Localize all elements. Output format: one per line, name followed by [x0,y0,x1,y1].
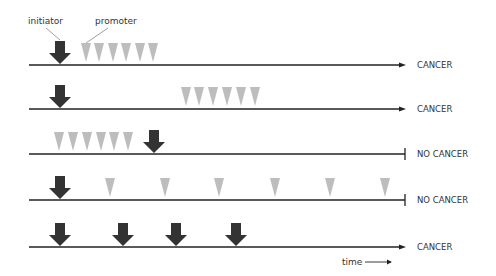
promoter-icon [236,87,246,106]
initiator-leader-line [46,28,60,40]
promoter-icon [135,43,145,62]
arrow-head-icon [399,107,406,112]
promoter-icon [94,43,104,62]
arrow-head-icon [399,63,406,68]
initiator-icon [49,85,71,108]
time-label: time [342,257,363,267]
outcome-label: CANCER [417,242,452,252]
promoter-icon [222,87,232,106]
initiator-icon [143,130,165,153]
promoter-leader-line [86,28,108,43]
carcinogenesis-diagram: initiator promoter CANCERCANCERNO CANCER… [0,0,496,276]
timeline-row: CANCER [29,41,452,70]
initiator-label: initiator [28,16,63,26]
promoter-icon [54,132,64,151]
promoter-icon [108,43,118,62]
initiator-icon [112,223,134,246]
outcome-label: NO CANCER [417,195,468,205]
promoter-icon [121,43,131,62]
outcome-label: NO CANCER [417,149,468,159]
promoter-icon [194,87,204,106]
initiator-icon [225,223,247,246]
promoter-icon [160,178,170,197]
promoter-icon [214,178,224,197]
initiator-icon [49,223,71,246]
outcome-label: CANCER [417,60,452,70]
promoter-icon [380,178,390,197]
promoter-icon [325,178,335,197]
promoter-icon [105,178,115,197]
initiator-icon [49,41,71,64]
promoter-icon [82,132,92,151]
timeline-row: NO CANCER [29,130,468,160]
promoter-icon [250,87,260,106]
promoter-icon [181,87,191,106]
promoter-icon [81,43,91,62]
promoter-icon [123,132,133,151]
promoter-icon [270,178,280,197]
promoter-icon [68,132,78,151]
promoter-icon [148,43,158,62]
promoter-icon [96,132,106,151]
promoter-icon [109,132,119,151]
timeline-row: NO CANCER [29,176,468,206]
outcome-label: CANCER [417,104,452,114]
initiator-icon [165,223,187,246]
promoter-label: promoter [95,16,137,26]
promoter-icon [208,87,218,106]
initiator-icon [49,176,71,199]
timeline-row: CANCER [29,223,452,252]
arrow-head-icon [399,245,406,250]
timeline-row: CANCER [29,85,452,114]
